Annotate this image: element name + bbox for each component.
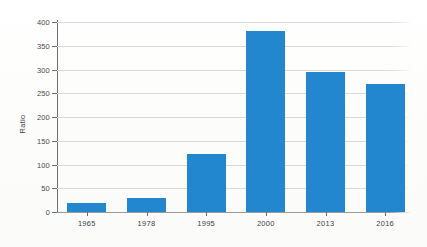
y-axis-tick-label: 0: [4, 208, 50, 217]
gridline: [57, 141, 415, 142]
gridline: [57, 93, 415, 94]
x-axis-tick-label: 1978: [138, 219, 156, 228]
plot-area: [57, 22, 415, 212]
x-axis-tick-mark: [87, 212, 88, 216]
y-axis-tick-label: 150: [4, 136, 50, 145]
x-axis-tick-mark: [147, 212, 148, 216]
y-axis-tick-label: 200: [4, 113, 50, 122]
x-axis-tick-mark: [326, 212, 327, 216]
gridline: [57, 117, 415, 118]
x-axis-tick-mark: [266, 212, 267, 216]
bar-2013[interactable]: [306, 72, 345, 212]
gridline: [57, 212, 415, 213]
gridline: [57, 165, 415, 166]
gridline: [57, 22, 415, 23]
x-axis-tick-label: 2016: [376, 219, 394, 228]
y-axis-tick-label: 300: [4, 65, 50, 74]
x-axis-tick-label: 1965: [78, 219, 96, 228]
x-axis-tick-label: 2013: [317, 219, 335, 228]
bar-chart: Ratio 050100150200250300350400 196519781…: [0, 0, 427, 247]
bar-2000[interactable]: [246, 31, 285, 212]
y-axis-tick-label: 400: [4, 18, 50, 27]
bar-1978[interactable]: [127, 198, 166, 212]
x-axis-tick-label: 1995: [197, 219, 215, 228]
x-axis-tick-mark: [385, 212, 386, 216]
y-axis-tick-label: 50: [4, 184, 50, 193]
y-axis-tick-label: 100: [4, 160, 50, 169]
bar-1995[interactable]: [187, 154, 226, 212]
y-axis-tick-label: 250: [4, 89, 50, 98]
x-axis-tick-mark: [206, 212, 207, 216]
y-axis-tick-labels: 050100150200250300350400: [0, 0, 50, 247]
bar-2016[interactable]: [366, 84, 405, 212]
gridline: [57, 46, 415, 47]
y-axis-tick-label: 350: [4, 41, 50, 50]
gridline: [57, 70, 415, 71]
x-axis-tick-label: 2000: [257, 219, 275, 228]
bar-1965[interactable]: [67, 203, 106, 212]
gridline: [57, 188, 415, 189]
